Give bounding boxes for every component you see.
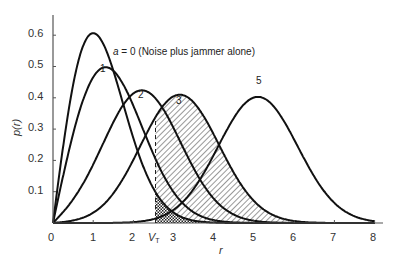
hatched-regions: [156, 95, 311, 223]
x-tick-5: 5: [250, 231, 256, 243]
x-tick-7: 7: [330, 231, 336, 243]
y-tick-0.4: 0.4: [28, 90, 43, 102]
x-tick-4: 4: [210, 231, 216, 243]
x-tick-2: 2: [129, 231, 135, 243]
y-tick-0.1: 0.1: [28, 184, 43, 196]
y-tick-0.2: 0.2: [28, 152, 43, 164]
y-tick-0.3: 0.3: [28, 121, 43, 133]
rician-pdf-chart: 0 1 2 VT 3 4 5 6 7 8 0.1 0.2 0.3 0.4 0.5…: [0, 0, 400, 264]
y-tick-0.5: 0.5: [28, 58, 43, 70]
curve-label-5: 5: [256, 75, 262, 86]
x-axis-label: r: [219, 244, 224, 256]
y-axis-label: p(r): [10, 119, 22, 137]
x-tick-8: 8: [370, 231, 376, 243]
curve-label-1: 1: [100, 63, 106, 74]
curve-label-3: 3: [176, 95, 182, 106]
x-tick-3: 3: [170, 231, 176, 243]
curve-label-2: 2: [138, 89, 144, 100]
x-tick-vt: VT: [148, 231, 160, 244]
x-tick-1: 1: [90, 231, 96, 243]
annotation-a0: a = 0 (Noise plus jammer alone): [113, 46, 255, 57]
x-tick-0: 0: [48, 231, 54, 243]
x-tick-6: 6: [290, 231, 296, 243]
y-tick-0.6: 0.6: [28, 27, 43, 39]
hatch-under-curve-3: [156, 95, 311, 223]
